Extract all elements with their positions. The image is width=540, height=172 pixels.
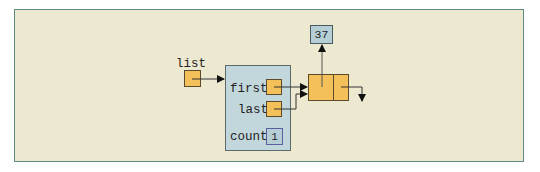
reference-arrows [0, 0, 540, 172]
